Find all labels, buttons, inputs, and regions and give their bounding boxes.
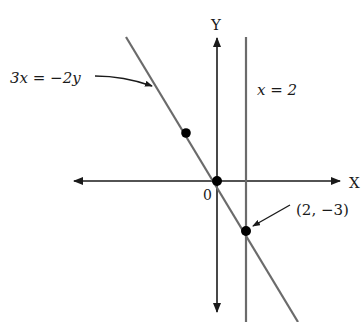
point-neg2-3	[181, 128, 191, 138]
coordinate-diagram: Y X 0 3x = −2y x = 2 (2, −3)	[0, 0, 363, 322]
equation-pointer-arrow-icon	[95, 76, 152, 86]
equation-label-vertical: x = 2	[257, 81, 297, 99]
origin-label: 0	[203, 187, 212, 203]
point-2-neg3	[241, 226, 251, 236]
y-axis-label: Y	[210, 16, 222, 34]
point-label: (2, −3)	[296, 201, 349, 219]
line-3x-equals-neg2y	[126, 37, 298, 322]
origin-point	[212, 176, 222, 186]
equation-label-diagonal: 3x = −2y	[10, 69, 81, 87]
x-axis-label: X	[349, 174, 360, 192]
point-pointer-arrow-icon	[253, 205, 290, 226]
